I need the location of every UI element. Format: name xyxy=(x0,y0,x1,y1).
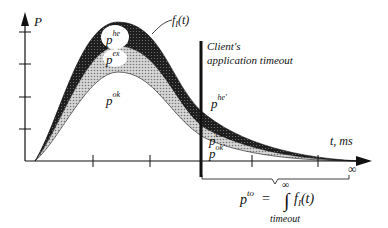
region-label-ok: pok xyxy=(105,90,121,108)
timeout-brace xyxy=(202,175,349,184)
y-axis-label: P xyxy=(33,14,42,29)
timeout-label-line2: application timeout xyxy=(207,54,294,66)
x-axis-label: t, ms xyxy=(330,134,353,148)
y-axis-arrow-icon xyxy=(21,12,29,26)
timeout-label-line1: Client's xyxy=(207,40,241,52)
diagram: P t, ms ∞ Client's application timeout f… xyxy=(0,0,388,228)
region-label-ok-prime: pok' xyxy=(208,143,225,161)
region-label-he-prime: phe' xyxy=(210,93,227,111)
formula-integral: ∫ xyxy=(282,189,291,213)
curve-label: fI(t) xyxy=(172,13,189,29)
curve-leader-line xyxy=(152,20,172,34)
formula-integrand: fI(t) xyxy=(294,191,314,208)
formula-lower-limit: timeout xyxy=(270,213,300,224)
infinity-label: ∞ xyxy=(348,162,357,176)
formula-lhs: pto xyxy=(239,188,255,207)
formula-equals: = xyxy=(262,191,270,206)
x-axis-arrow-icon xyxy=(356,156,372,166)
